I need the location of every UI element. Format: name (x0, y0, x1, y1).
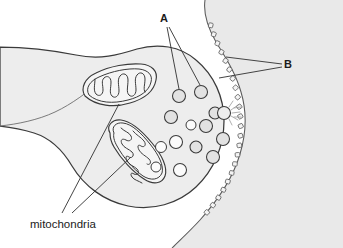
synaptic-vesicle-4 (200, 120, 213, 133)
callout-label-b: B (284, 58, 292, 70)
synaptic-vesicle-7 (217, 133, 230, 146)
synaptic-vesicle-3 (165, 111, 178, 124)
callout-label-mitochondria: mitochondria (30, 218, 96, 230)
synaptic-vesicle-6 (190, 141, 202, 153)
diagram-canvas (0, 0, 343, 248)
synaptic-vesicle-13 (186, 120, 196, 130)
synapse-diagram-figure: A B mitochondria (0, 0, 343, 248)
synaptic-vesicle-11 (151, 162, 161, 172)
synaptic-vesicle-2 (195, 86, 208, 99)
synaptic-vesicle-1 (173, 90, 186, 103)
synaptic-vesicle-8 (207, 151, 220, 164)
callout-label-a: A (160, 12, 168, 24)
synaptic-vesicle-12 (156, 142, 167, 153)
synaptic-vesicle-9 (174, 164, 187, 177)
synaptic-vesicle-5 (170, 136, 183, 149)
